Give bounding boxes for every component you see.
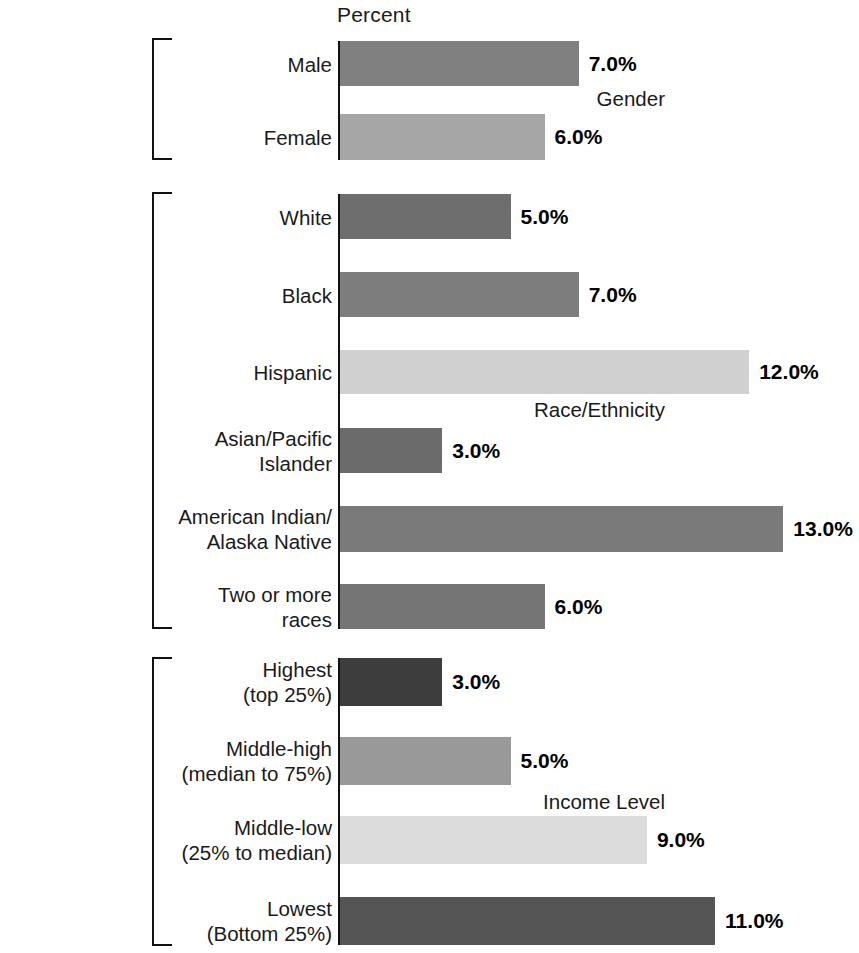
bar-row: Middle-high (median to 75%)5.0% [0, 737, 859, 785]
axis-baseline [338, 194, 340, 629]
bar-value-label: 7.0% [589, 52, 637, 76]
group-label-income-level: Income Level [543, 790, 665, 814]
bar-row: Two or more races6.0% [0, 584, 859, 629]
bar[interactable] [340, 658, 442, 706]
bar-value-label: 5.0% [521, 749, 569, 773]
bar[interactable] [340, 194, 511, 239]
bar-row: Lowest (Bottom 25%)11.0% [0, 897, 859, 945]
bar[interactable] [340, 272, 579, 317]
bar-value-label: 5.0% [521, 205, 569, 229]
bar-value-label: 9.0% [657, 828, 705, 852]
bar-category-label: Asian/Pacific Islander [215, 426, 332, 476]
bar-category-label: Lowest (Bottom 25%) [207, 896, 332, 946]
bar-row: Black7.0% [0, 272, 859, 317]
group-bracket [152, 192, 172, 629]
bar-value-label: 7.0% [589, 283, 637, 307]
bar-category-label: Male [288, 51, 332, 76]
bar-row: White5.0% [0, 194, 859, 239]
bar-value-label: 3.0% [452, 670, 500, 694]
bar-row: Male7.0% [0, 41, 859, 86]
bar[interactable] [340, 506, 783, 552]
bar-category-label: Highest (top 25%) [243, 657, 332, 707]
bar-category-label: Middle-high (median to 75%) [182, 736, 332, 786]
bar-row: Asian/Pacific Islander3.0% [0, 428, 859, 473]
bar-row: Female6.0% [0, 114, 859, 160]
bar-category-label: Female [264, 125, 332, 150]
bar[interactable] [340, 816, 647, 864]
bar[interactable] [340, 584, 545, 629]
bar-category-label: Two or more races [218, 582, 332, 632]
bar-row: Hispanic12.0% [0, 350, 859, 394]
bar-value-label: 3.0% [452, 439, 500, 463]
bar-value-label: 12.0% [759, 360, 819, 384]
bar-category-label: American Indian/ Alaska Native [178, 504, 332, 554]
bar-category-label: Black [282, 282, 332, 307]
plot-area: Male7.0%Female6.0%White5.0%Black7.0%Hisp… [0, 0, 859, 953]
bar-category-label: White [280, 204, 332, 229]
group-bracket [152, 38, 172, 160]
group-label-race-ethnicity: Race/Ethnicity [534, 398, 665, 422]
bar[interactable] [340, 350, 749, 394]
bar[interactable] [340, 897, 715, 945]
bar[interactable] [340, 737, 511, 785]
group-bracket [152, 657, 172, 946]
bar-value-label: 11.0% [725, 909, 783, 933]
bar-row: Middle-low (25% to median)9.0% [0, 816, 859, 864]
bar-value-label: 6.0% [555, 595, 603, 619]
bar-category-label: Hispanic [253, 360, 332, 385]
bar-chart: Percent Male7.0%Female6.0%White5.0%Black… [0, 0, 859, 953]
bar-row: Highest (top 25%)3.0% [0, 658, 859, 706]
group-label-gender: Gender [597, 87, 665, 111]
bar-value-label: 13.0% [793, 517, 853, 541]
bar-category-label: Middle-low (25% to median) [182, 815, 332, 865]
bar-row: American Indian/ Alaska Native13.0% [0, 506, 859, 552]
bar-value-label: 6.0% [555, 125, 603, 149]
bar[interactable] [340, 428, 442, 473]
bar[interactable] [340, 41, 579, 86]
bar[interactable] [340, 114, 545, 160]
